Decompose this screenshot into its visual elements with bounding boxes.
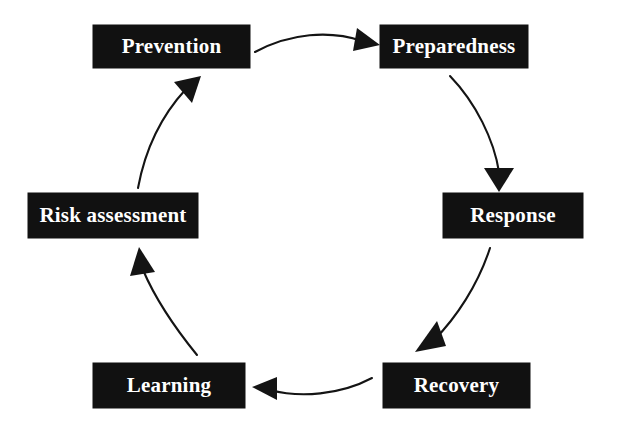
node-risk-assessment-label: Risk assessment <box>39 205 186 226</box>
node-preparedness[interactable]: Preparedness <box>380 25 528 68</box>
node-prevention-label: Prevention <box>122 36 222 57</box>
node-response[interactable]: Response <box>443 193 583 238</box>
arrowhead-right-icon <box>353 28 380 51</box>
arrow-response-to-recovery <box>415 248 490 352</box>
node-response-label: Response <box>470 205 556 226</box>
arrow-recovery-to-learning <box>252 377 372 400</box>
arrow-prevention-to-preparedness <box>255 28 380 52</box>
node-learning[interactable]: Learning <box>93 363 245 408</box>
arrow-preparedness-to-response <box>450 76 514 192</box>
diagram-canvas: Prevention Preparedness Response Recover… <box>0 0 619 427</box>
node-recovery-label: Recovery <box>414 375 500 396</box>
node-recovery[interactable]: Recovery <box>383 363 530 408</box>
arrowhead-up-right-icon <box>174 76 201 103</box>
arrow-risk-assessment-to-prevention <box>138 76 201 188</box>
arrowhead-down-icon <box>484 168 514 192</box>
arrowhead-down-left-icon <box>415 321 446 352</box>
arrow-learning-to-risk-assessment <box>130 247 197 355</box>
arrowhead-left-icon <box>252 377 277 400</box>
node-learning-label: Learning <box>127 375 211 396</box>
node-preparedness-label: Preparedness <box>393 36 516 57</box>
node-prevention[interactable]: Prevention <box>93 25 250 68</box>
arrowhead-up-icon <box>130 247 155 276</box>
node-risk-assessment[interactable]: Risk assessment <box>28 193 198 238</box>
